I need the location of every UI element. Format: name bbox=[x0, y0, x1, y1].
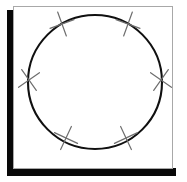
figure-container bbox=[0, 0, 187, 182]
white-panel bbox=[14, 7, 173, 169]
drop-shadow-left-bar bbox=[7, 10, 14, 176]
circle-diagram-svg bbox=[0, 0, 187, 182]
drop-shadow-bottom-bar bbox=[7, 168, 176, 176]
